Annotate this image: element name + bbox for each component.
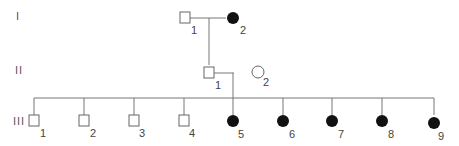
individual-III-3 xyxy=(129,115,139,126)
individual-III-5 xyxy=(227,115,239,127)
individual-III-1 xyxy=(29,115,39,126)
pedigree-chart xyxy=(0,0,459,146)
individual-III-8 xyxy=(376,115,388,127)
number-II-2: 2 xyxy=(263,76,269,88)
individual-III-4 xyxy=(179,115,189,126)
individual-III-2 xyxy=(79,115,89,126)
number-I-1: 1 xyxy=(191,24,197,36)
number-III-2: 2 xyxy=(90,127,96,139)
number-II-1: 1 xyxy=(215,79,221,91)
number-III-9: 9 xyxy=(438,130,444,142)
generation-label-II: II xyxy=(15,64,23,76)
number-III-8: 8 xyxy=(388,128,394,140)
individual-III-7 xyxy=(326,115,338,127)
number-III-1: 1 xyxy=(40,127,46,139)
individual-II-1 xyxy=(204,67,214,78)
number-III-7: 7 xyxy=(338,128,344,140)
number-III-3: 3 xyxy=(139,127,145,139)
generation-label-III: III xyxy=(13,115,25,127)
individual-III-9 xyxy=(428,117,440,129)
individual-I-1 xyxy=(180,12,190,23)
individual-III-6 xyxy=(277,115,289,127)
number-III-4: 4 xyxy=(189,127,195,139)
number-III-5: 5 xyxy=(238,128,244,140)
generation-label-I: I xyxy=(16,10,20,22)
number-I-2: 2 xyxy=(240,24,246,36)
number-III-6: 6 xyxy=(289,128,295,140)
individual-I-2 xyxy=(227,12,239,24)
